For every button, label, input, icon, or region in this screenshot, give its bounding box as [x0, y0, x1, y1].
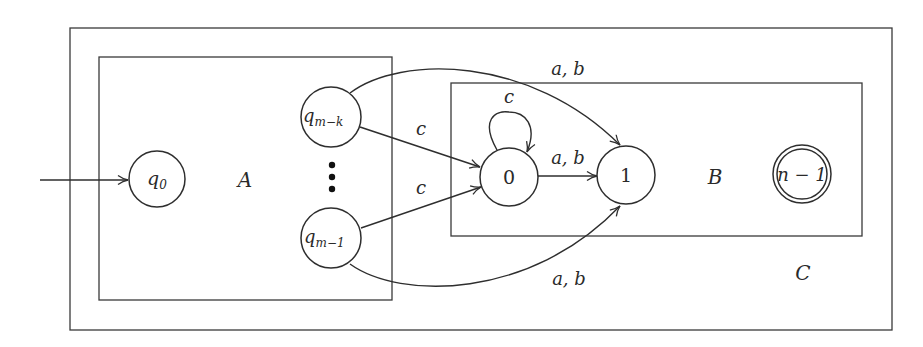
state-0: 0: [480, 148, 538, 206]
edge-label-qmk-1: a, b: [551, 58, 585, 79]
state-q-m-k: qm−k: [301, 87, 361, 147]
state-1-label: 1: [620, 164, 632, 186]
edge-loop-0: [489, 112, 531, 152]
region-a-label: A: [236, 168, 252, 192]
state-q0: q0: [129, 151, 185, 207]
state-0-label: 0: [503, 166, 515, 188]
edge-label-0-1: a, b: [551, 147, 585, 168]
state-1: 1: [597, 146, 655, 204]
edge-label-loop-0: c: [504, 86, 514, 107]
state-q-m-1: qm−1: [301, 208, 361, 268]
edge-label-qm1-1: a, b: [552, 268, 586, 289]
edge-label-qmk-0: c: [416, 118, 426, 139]
region-b-label: B: [707, 165, 723, 189]
automaton-diagram: q0 qm−k qm−1 0 1 n − 1 A B C c c c a, b …: [0, 0, 923, 347]
edge-qmk-to-1: [350, 69, 620, 145]
state-n-minus-1: n − 1: [773, 145, 831, 203]
edge-label-qm1-0: c: [416, 177, 426, 198]
region-c-label: C: [795, 261, 810, 285]
state-n-minus-1-label: n − 1: [777, 164, 827, 185]
ellipsis-dots: [329, 162, 335, 192]
